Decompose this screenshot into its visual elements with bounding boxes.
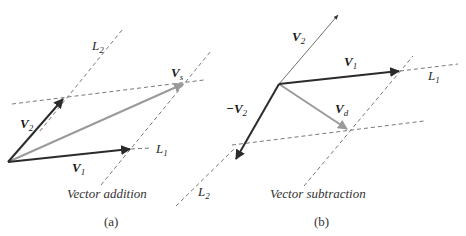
- panel-b: V2 V1 L1 −V2 Vd L2 Vector subtraction (b…: [176, 15, 458, 229]
- v1-vector-arrow: [8, 149, 130, 162]
- panel-label-a: (a): [104, 214, 118, 229]
- neg-v2-label: −V2: [226, 101, 248, 118]
- neg-v2-vector-arrow: [236, 84, 279, 159]
- caption-vector-addition: Vector addition: [67, 186, 147, 201]
- v2-vector-arrow: [8, 99, 63, 162]
- vector-diagram: L2 V2 Vs L1 V1 Vector addition (a) V2 V1…: [0, 0, 466, 236]
- v2-label: V2: [292, 29, 306, 46]
- caption-vector-subtraction: Vector subtraction: [270, 186, 366, 201]
- l2-parallel-line-through-v1: [101, 51, 211, 185]
- l1-label: L1: [427, 68, 440, 85]
- v1-label: V1: [72, 160, 85, 177]
- v1-label: V1: [344, 54, 357, 71]
- v1-vector-arrow: [279, 71, 399, 84]
- v2-label: V2: [20, 116, 34, 133]
- l1-line-extension: [131, 148, 152, 149]
- l2-label: L2: [197, 184, 210, 201]
- vs-label: Vs: [171, 65, 184, 82]
- v2-thin-arrow: [279, 15, 338, 84]
- l1-parallel-line-through-neg-v2: [232, 121, 424, 145]
- l1-parallel-line-through-v2: [12, 80, 204, 104]
- panel-a: L2 V2 Vs L1 V1 Vector addition (a): [8, 30, 211, 229]
- panel-label-b: (b): [314, 214, 329, 229]
- vd-label: Vd: [335, 101, 349, 118]
- l1-label: L1: [155, 141, 168, 158]
- l2-label: L2: [91, 38, 104, 55]
